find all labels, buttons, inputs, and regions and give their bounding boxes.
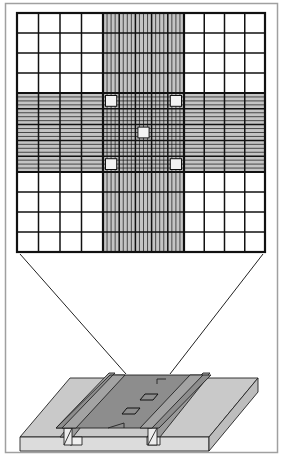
diagram-frame: Hemocytometer counting chamber Magnified… xyxy=(0,0,285,459)
highlighted-square-top-left xyxy=(106,96,117,107)
highlighted-square-bottom-left xyxy=(106,159,117,170)
hemocytometer-diagram xyxy=(0,0,285,459)
slide-front-face xyxy=(20,437,209,451)
highlighted-square-top-right xyxy=(170,96,181,107)
highlighted-square-center xyxy=(138,127,149,138)
highlighted-square-bottom-right xyxy=(170,159,181,170)
